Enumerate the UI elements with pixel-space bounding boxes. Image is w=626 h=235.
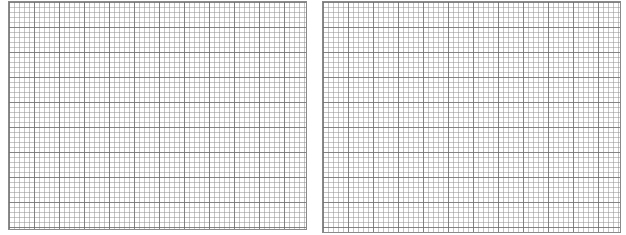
left-graph-paper-grid — [8, 1, 307, 230]
graph-paper-page — [0, 0, 626, 235]
right-graph-paper-grid — [322, 1, 621, 233]
